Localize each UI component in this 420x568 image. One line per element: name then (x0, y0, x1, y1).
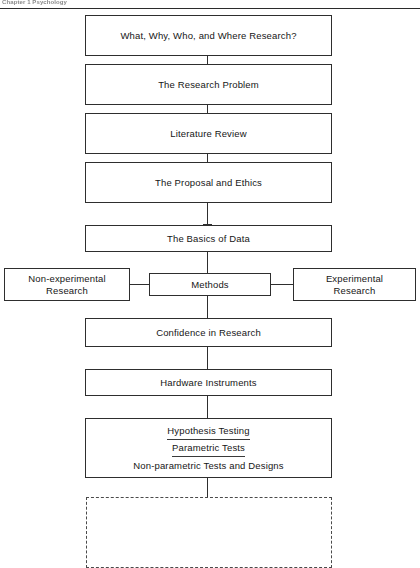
node-non-experimental-research[interactable]: Non-experimental Research (4, 268, 130, 301)
node-label: The Research Problem (158, 79, 259, 91)
node-hypothesis-testing-block[interactable]: Hypothesis Testing Parametric Tests Non-… (85, 418, 332, 478)
node-label: The Basics of Data (167, 233, 250, 245)
arrowhead-n4-n5 (203, 224, 212, 225)
node-experimental-research[interactable]: Experimental Research (293, 268, 416, 301)
connector-n6-n7 (207, 296, 208, 318)
connector-n9-n10 (207, 477, 208, 498)
node-label-parametric-tests: Parametric Tests (172, 442, 245, 457)
connector-n7-n8 (207, 347, 208, 369)
node-label: Methods (191, 279, 229, 291)
node-what-why-who-where-research[interactable]: What, Why, Who, and Where Research? (85, 15, 332, 56)
node-label-line-2: Research (334, 285, 376, 297)
node-label-non-parametric-tests-and-designs: Non-parametric Tests and Designs (133, 460, 283, 472)
node-the-proposal-and-ethics[interactable]: The Proposal and Ethics (85, 162, 332, 203)
node-dashed-placeholder[interactable] (86, 497, 332, 568)
node-label-line-1: Experimental (326, 273, 383, 285)
node-label: The Proposal and Ethics (155, 177, 262, 189)
node-label: Literature Review (170, 128, 246, 140)
node-the-research-problem[interactable]: The Research Problem (85, 64, 332, 105)
connector-n8-n9 (207, 396, 208, 418)
connector-nonexperimental-methods (130, 284, 149, 285)
node-label: Confidence in Research (156, 327, 261, 339)
node-label-line-1: Non-experimental (28, 273, 105, 285)
node-label: What, Why, Who, and Where Research? (120, 30, 296, 42)
node-the-basics-of-data[interactable]: The Basics of Data (85, 225, 332, 252)
node-methods[interactable]: Methods (149, 273, 271, 296)
node-label-line-2: Research (46, 285, 88, 297)
connector-methods-experimental (271, 284, 293, 285)
node-hardware-instruments[interactable]: Hardware Instruments (85, 369, 332, 396)
node-label: Hardware Instruments (160, 377, 256, 389)
node-confidence-in-research[interactable]: Confidence in Research (85, 318, 332, 347)
node-literature-review[interactable]: Literature Review (85, 113, 332, 154)
node-label-hypothesis-testing: Hypothesis Testing (167, 425, 249, 440)
connector-n4-n5 (207, 203, 208, 225)
connector-n5-n6 (207, 252, 208, 273)
research-process-flowchart: What, Why, Who, and Where Research? The … (0, 0, 420, 568)
